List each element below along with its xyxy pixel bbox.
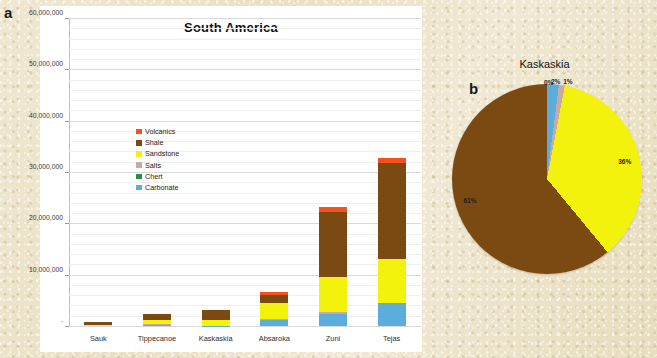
bar-segment-shale [319,212,347,277]
pie-label-sandstone: 36% [618,158,631,165]
gridline-minor [69,28,421,29]
legend-item-carbonate[interactable]: Carbonate [136,182,179,193]
bar-segment-carbonate [143,325,171,326]
bar-tejas[interactable] [378,158,406,326]
gridline-major [69,326,421,327]
y-axis-tick-label: 50,000,000 [29,60,63,67]
legend-item-salts[interactable]: Salts [136,160,179,171]
gridline-minor [69,110,421,111]
legend-item-chert[interactable]: Chert [136,171,179,182]
gridline-major [69,69,421,70]
legend-label: Shale [145,138,163,147]
gridline-minor [69,49,421,50]
pie-chart-title: Kaskaskia [432,58,657,70]
panel-a-letter: a [4,4,12,21]
gridline-minor [69,90,421,91]
y-axis-tick-label: 10,000,000 [29,265,63,272]
bar-sauk[interactable] [84,322,112,326]
gridline-major [69,223,421,224]
bar-segment-sandstone [260,303,288,318]
gridline-major [69,121,421,122]
gridline-minor [69,80,421,81]
bar-segment-sandstone [378,259,406,303]
y-axis-tick-label: 30,000,000 [29,163,63,170]
x-axis-label-absaroka: Absaroka [259,334,290,343]
x-axis-label-kaskaskia: Kaskaskia [199,334,233,343]
legend-swatch-carbonate [136,185,142,191]
legend-swatch-shale [136,140,142,146]
gridline-minor [69,285,421,286]
bar-segment-shale [260,295,288,304]
pie-label-shale: 61% [463,196,476,203]
gridline-minor [69,203,421,204]
y-axis-tick [65,121,69,122]
pie-chart-panel: Kaskaskia b 0%2%1%36%61% [432,0,657,358]
bar-segment-shale [202,310,230,320]
y-axis-tick-label: 20,000,000 [29,214,63,221]
bar-segment-carbonate [378,303,406,326]
pie-wrap: 0%2%1%36%61% [452,84,642,274]
chart-legend: VolcanicsShaleSandstoneSaltsChertCarbona… [136,126,179,193]
gridline-minor [69,100,421,101]
bar-tippecanoe[interactable] [143,314,171,326]
legend-label: Sandstone [145,149,179,158]
legend-label: Carbonate [145,183,179,192]
x-axis-label-tejas: Tejas [383,334,400,343]
gridline-minor [69,316,421,317]
y-axis-tick [65,69,69,70]
gridline-minor [69,254,421,255]
gridline-minor [69,151,421,152]
gridline-minor [69,59,421,60]
bar-segment-carbonate [260,320,288,326]
legend-item-shale[interactable]: Shale [136,137,179,148]
gridline-major [69,172,421,173]
pie-label-carbonate: 2% [551,77,560,84]
y-axis-tick-label: - [61,317,63,324]
bar-segment-sandstone [319,277,347,311]
bar-segment-sandstone [84,325,112,326]
gridline-minor [69,141,421,142]
bar-zuni[interactable] [319,207,347,326]
gridline-minor [69,213,421,214]
legend-label: Volcanics [145,127,175,136]
gridline-minor [69,244,421,245]
legend-swatch-sandstone [136,151,142,157]
legend-item-volcanics[interactable]: Volcanics [136,126,179,137]
gridline-major [69,18,421,19]
figure-page: South America -10,000,00020,000,00030,00… [0,0,657,358]
x-axis-label-zuni: Zuni [326,334,340,343]
gridline-minor [69,193,421,194]
gridline-minor [69,234,421,235]
gridline-minor [69,264,421,265]
bar-kaskaskia[interactable] [202,310,230,326]
x-axis-label-sauk: Sauk [90,334,107,343]
bar-segment-carbonate [319,314,347,326]
pie-label-salts: 1% [563,77,572,84]
x-axis-label-tippecanoe: Tippecanoe [138,334,176,343]
gridline-minor [69,162,421,163]
gridline-minor [69,131,421,132]
gridline-minor [69,305,421,306]
bar-absaroka[interactable] [260,292,288,326]
y-axis-tick [65,172,69,173]
y-axis-tick [65,223,69,224]
bar-plot-area: -10,000,00020,000,00030,000,00040,000,00… [69,19,421,327]
bar-segment-shale [378,163,406,258]
legend-swatch-chert [136,174,142,180]
y-axis-line [69,19,70,327]
gridline-major [69,275,421,276]
pie-graphic [452,84,642,274]
legend-item-sandstone[interactable]: Sandstone [136,148,179,159]
gridline-minor [69,295,421,296]
gridline-minor [69,39,421,40]
legend-label: Salts [145,161,161,170]
bar-chart-panel: South America -10,000,00020,000,00030,00… [40,6,422,352]
legend-swatch-volcanics [136,129,142,135]
y-axis-tick [65,18,69,19]
legend-label: Chert [145,172,163,181]
y-axis-tick-label: 40,000,000 [29,111,63,118]
y-axis-tick [65,326,69,327]
gridline-minor [69,182,421,183]
bar-segment-carbonate [202,326,230,327]
legend-swatch-salts [136,162,142,168]
